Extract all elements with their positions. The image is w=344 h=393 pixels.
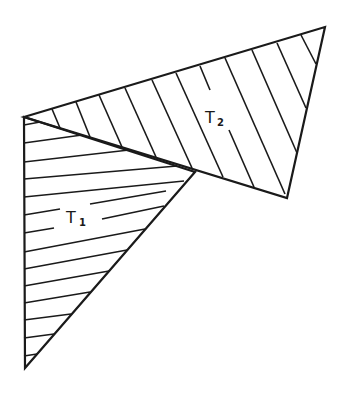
- triangles-diagram: T 2 T 1: [0, 0, 344, 393]
- t1-hatching: [24, 122, 184, 356]
- label-t1: T 1: [65, 208, 86, 228]
- svg-text:1: 1: [79, 217, 86, 228]
- svg-text:T: T: [204, 108, 215, 127]
- triangle-t1-outline: [24, 117, 195, 368]
- svg-text:T: T: [65, 208, 76, 227]
- label-t2: T 2: [204, 108, 224, 128]
- svg-text:2: 2: [217, 117, 224, 128]
- t2-hatching: [52, 35, 316, 194]
